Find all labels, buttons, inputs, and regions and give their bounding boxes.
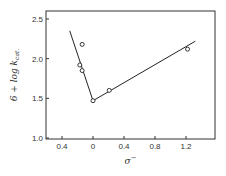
x-tick-label: 0.4 xyxy=(56,142,68,151)
x-tick-label: 0.4 xyxy=(118,142,130,151)
y-tick-label: 2.0 xyxy=(32,55,44,64)
data-point xyxy=(80,69,84,73)
x-tick-label: 0 xyxy=(91,142,96,151)
y-tick-label: 1.0 xyxy=(32,134,44,143)
x-tick-label: 1.2 xyxy=(180,142,192,151)
y-tick-label: 1.5 xyxy=(32,94,44,103)
x-axis-label: σ− xyxy=(124,154,136,166)
data-point xyxy=(107,88,111,92)
data-point xyxy=(186,47,190,51)
data-point xyxy=(91,99,95,103)
y-axis-label: 6 + log kcat. xyxy=(9,49,20,102)
data-point xyxy=(78,63,82,67)
data-point xyxy=(80,42,84,46)
x-tick-label: 0.8 xyxy=(149,142,161,151)
chart: 1.01.52.02.50.400.40.81.2σ−6 + log kcat. xyxy=(0,0,226,176)
plot-frame xyxy=(46,11,215,139)
y-tick-label: 2.5 xyxy=(32,15,44,24)
